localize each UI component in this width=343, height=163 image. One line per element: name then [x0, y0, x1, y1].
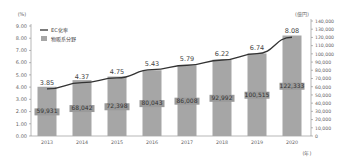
right-axis-tick-label: 80,000: [315, 68, 331, 73]
line-value-label: 3.85: [40, 79, 54, 87]
right-axis-tick-label: 100,000: [315, 52, 334, 57]
line-value-label: 6.22: [215, 50, 229, 58]
left-axis-tick-label: 5.00: [16, 72, 27, 78]
line-value-label: 5.43: [145, 60, 159, 68]
right-axis-unit: (億円): [295, 11, 309, 18]
bar-value-label: 92,992: [212, 94, 233, 101]
left-axis-tick-label: 1.00: [16, 121, 27, 127]
line-value-label: 4.37: [75, 73, 89, 81]
bar-value-label: 86,008: [177, 97, 198, 104]
bar-value-label: 80,043: [142, 99, 163, 106]
left-axis-tick-label: 9.00: [16, 23, 27, 29]
right-axis-tick-label: 0: [315, 134, 318, 139]
right-axis-tick-label: 30,000: [315, 109, 331, 114]
right-axis-tick-label: 10,000: [315, 126, 331, 131]
right-axis-tick-label: 90,000: [315, 60, 331, 65]
line-value-label: 4.75: [110, 68, 124, 76]
right-axis-tick-label: 70,000: [315, 76, 331, 81]
legend-label-merchandise: 物販系分野: [51, 36, 76, 43]
left-axis-unit: (%): [18, 11, 27, 17]
x-tick-label: 2014: [76, 140, 88, 145]
right-axis-tick-label: 120,000: [315, 35, 334, 40]
bar-value-label: 59,931: [37, 107, 58, 114]
right-axis-tick-label: 60,000: [315, 85, 331, 90]
left-axis-tick-label: 4.00: [16, 84, 27, 90]
right-axis-tick-label: 40,000: [315, 101, 331, 106]
bar-value-label: 122,333: [280, 82, 305, 89]
x-tick-label: 2017: [181, 140, 193, 145]
right-axis-tick-label: 130,000: [315, 27, 334, 32]
bar-value-label: 72,398: [107, 102, 128, 109]
x-tick-label: 2018: [216, 140, 228, 145]
left-axis-tick-label: 7.00: [16, 47, 27, 53]
right-axis-tick-label: 140,000: [315, 19, 334, 24]
left-axis-tick-label: 6.00: [16, 59, 27, 65]
left-axis-tick-label: 8.00: [16, 35, 27, 41]
right-axis-tick-label: 50,000: [315, 93, 331, 98]
left-axis-tick-label: 3.00: [16, 96, 27, 102]
x-tick-label: 2019: [251, 140, 263, 145]
x-tick-label: 2015: [111, 140, 123, 145]
bar-value-label: 100,515: [245, 91, 270, 98]
line-value-label: 8.08: [285, 27, 299, 35]
x-tick-label: 2016: [146, 140, 158, 145]
legend-bar-swatch: [41, 36, 47, 41]
x-tick-label: 2020: [286, 140, 298, 145]
chart-canvas: 0.001.002.003.004.005.006.007.008.009.00…: [0, 0, 343, 163]
bar-value-label: 68,042: [72, 104, 93, 111]
x-tick-label: 2013: [41, 140, 53, 145]
x-axis-unit: (年): [303, 150, 312, 157]
right-axis-tick-label: 110,000: [315, 43, 334, 48]
line-value-label: 6.74: [250, 44, 264, 52]
line-value-label: 5.79: [180, 55, 194, 63]
right-axis-tick-label: 20,000: [315, 117, 331, 122]
left-axis-tick-label: 0.00: [16, 133, 27, 139]
legend-label-ec-rate: EC化率: [51, 27, 68, 34]
left-axis-tick-label: 2.00: [16, 108, 27, 114]
ec-rate-bar-line-chart: 0.001.002.003.004.005.006.007.008.009.00…: [0, 0, 343, 163]
